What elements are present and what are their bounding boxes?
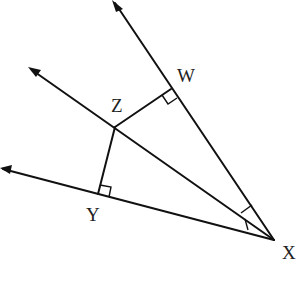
ray-xz-bisector <box>28 67 274 240</box>
label-y: Y <box>86 204 100 225</box>
angle-tick-wxz <box>241 205 252 213</box>
label-w: W <box>177 65 195 86</box>
angle-bisector-diagram: W Z Y X <box>0 0 303 296</box>
arrowhead-icon <box>0 165 12 174</box>
arrowhead-icon <box>112 0 123 12</box>
label-x: X <box>282 242 296 263</box>
ray-xy <box>0 165 274 240</box>
segment-zy <box>98 127 115 194</box>
right-angle-mark-w <box>162 95 177 104</box>
label-z: Z <box>111 95 123 116</box>
